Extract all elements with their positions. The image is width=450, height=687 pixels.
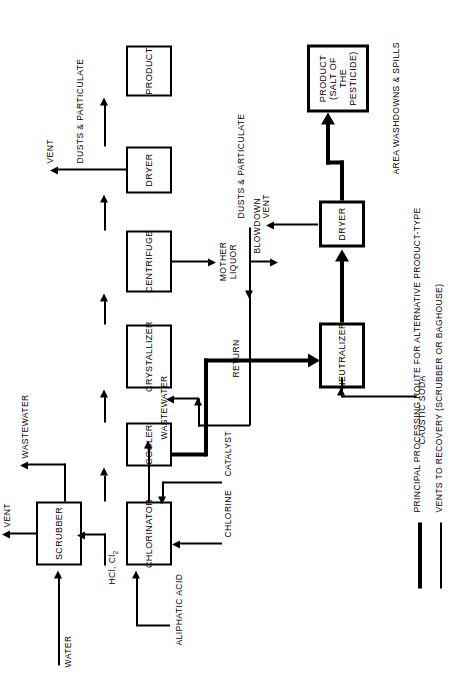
heavy-line-cooler-down: [172, 452, 206, 456]
arrowhead-into-crystallizer: [100, 389, 108, 397]
heavy-line-neutralizer-to-dryer: [340, 260, 344, 322]
arrowhead-into-cooler: [100, 467, 108, 475]
stream-label-catalyst: CATALYST: [224, 430, 234, 476]
arrowhead-into-dryer-alt: [335, 249, 349, 261]
arrowhead-caustic-soda: [337, 387, 345, 395]
stream-label-wastewater-scrubber: WASTEWATER: [21, 394, 31, 458]
line-crystallizer-to-centrifuge: [104, 300, 106, 324]
line-scrubber-wastewater-h: [64, 463, 66, 501]
arrowhead-blowdown: [270, 258, 278, 266]
heavy-line-cooler-right: [204, 358, 208, 456]
line-mother-liquor-v: [172, 260, 210, 262]
heavy-line-dryer-alt-to-product: [326, 122, 330, 164]
line-aliphatic-acid-stub: [136, 624, 170, 626]
arrowhead-hcl-into-scrubber: [77, 531, 85, 539]
process-flow-canvas: SCRUBBER CHLORINATOR COOLER CRYSTALLIZER…: [0, 0, 450, 687]
line-cooler-to-crystallizer: [104, 396, 106, 422]
line-chlorine: [178, 542, 222, 544]
unit-box-chlorinator[interactable]: CHLORINATOR: [126, 501, 172, 565]
arrowhead-into-dryer-main: [100, 194, 108, 202]
arrowhead-mother-liquor: [208, 258, 216, 266]
stream-label-dusts-alt: DUSTS & PARTICULATE: [237, 113, 247, 218]
arrowhead-return-into-crystallizer: [166, 395, 174, 403]
line-aliphatic-acid: [136, 577, 138, 625]
arrowhead-into-neutralizer: [308, 353, 320, 367]
arrowhead-chlorine: [172, 540, 180, 548]
line-scrubber-vent: [8, 532, 36, 534]
line-dryer-to-product: [104, 104, 106, 146]
line-water-to-scrubber: [58, 577, 60, 665]
stream-label-vent-dryer-main: VENT: [46, 139, 56, 163]
line-hcl-v: [83, 533, 105, 535]
stream-label-chlorine: CHLORINE: [224, 489, 234, 537]
legend-text-vents-to-recovery: VENTS TO RECOVERY (SCRUBBER OR BAGHOUSE): [434, 283, 444, 512]
unit-box-product-main[interactable]: PRODUCT: [126, 45, 172, 96]
line-centrifuge-to-dryer: [104, 201, 106, 230]
stream-label-vent-dryer-alt: VENT: [262, 194, 272, 218]
product-alt-line-1: PRODUCT: [318, 54, 328, 101]
mother-liquor-line2: LIQUOR: [228, 243, 238, 278]
heavy-line-to-neutralizer: [204, 358, 314, 362]
product-alt-line-2: (SALT OF THE: [328, 47, 348, 109]
line-return-h: [249, 290, 251, 425]
stream-label-mother-liquor: MOTHER LIQUOR: [219, 235, 239, 287]
stream-label-vent-scrubber: VENT: [3, 503, 13, 527]
line-dryer-alt-vent: [272, 223, 318, 225]
legend-text-principal-route: PRINCIPAL PROCESSING ROUTE FOR ALTERNATI…: [412, 207, 422, 512]
line-hcl-h: [104, 533, 106, 565]
arrowhead-into-product-alt: [321, 112, 335, 124]
line-chlorinator-to-cooler: [104, 475, 106, 501]
hcl-cl2-text: HCl, Cl: [107, 554, 117, 584]
arrowhead-scrubber-wastewater: [20, 461, 28, 469]
stream-label-hcl-cl2: HCl, Cl2: [108, 550, 119, 584]
stream-label-dusts-main: DUSTS & PARTICULATE: [76, 58, 86, 163]
arrowhead-into-product-main: [100, 97, 108, 105]
arrowhead-dryer-main-vent: [50, 166, 58, 174]
line-blowdown-tee: [249, 227, 251, 292]
line-chlorinator-wastewater: [148, 447, 150, 501]
line-catalyst-h: [162, 481, 164, 497]
hcl-cl2-subscript: 2: [112, 550, 119, 554]
unit-box-centrifuge[interactable]: CENTRIFUGE: [126, 230, 172, 292]
unit-box-product-alt[interactable]: PRODUCT (SALT OF THE PESTICIDE): [307, 44, 369, 112]
arrowhead-aliphatic-acid: [132, 570, 140, 578]
legend-swatch-heavy: [418, 522, 422, 588]
stream-label-water: WATER: [64, 635, 74, 667]
stream-label-area-washdowns: AREA WASHDOWNS & SPILLS: [392, 42, 402, 174]
arrowhead-chlorinator-wastewater: [144, 440, 152, 448]
unit-box-scrubber[interactable]: SCRUBBER: [36, 501, 82, 565]
unit-box-dryer-alt[interactable]: DRYER: [319, 200, 365, 247]
stream-label-aliphatic-acid: ALIPHATIC ACID: [175, 573, 185, 645]
mother-liquor-line1: MOTHER: [218, 241, 228, 281]
line-return-riser: [172, 397, 199, 399]
product-alt-line-3: PESTICIDE): [348, 51, 358, 106]
diagram-stage: SCRUBBER CHLORINATOR COOLER CRYSTALLIZER…: [0, 0, 450, 687]
line-scrubber-wastewater-v: [26, 463, 65, 465]
line-dryer-main-vent: [56, 168, 127, 170]
legend-swatch-thin: [440, 522, 442, 588]
arrowhead-catalyst: [158, 496, 166, 504]
heavy-line-dryer-alt-out: [340, 160, 344, 200]
line-caustic-soda-v: [342, 395, 416, 397]
arrowhead-water-into-scrubber: [54, 570, 62, 578]
arrowhead-scrubber-vent: [2, 530, 10, 538]
unit-box-dryer-main[interactable]: DRYER: [126, 146, 172, 193]
stream-label-wastewater-chlorinator: WASTEWATER: [160, 375, 170, 439]
line-catalyst-v: [163, 481, 222, 483]
arrowhead-dryer-alt-vent: [266, 221, 274, 229]
arrowhead-into-centrifuge: [100, 293, 108, 301]
